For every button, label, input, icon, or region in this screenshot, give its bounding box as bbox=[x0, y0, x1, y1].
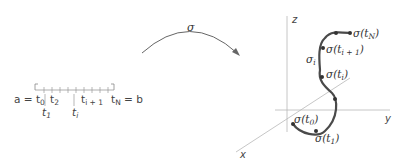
label-sigma-tN: σ(tN) bbox=[353, 27, 379, 41]
label-tN-eq-b: tN = b bbox=[111, 93, 143, 107]
point-ti1 bbox=[321, 46, 325, 50]
label-t1: t1 bbox=[42, 106, 51, 120]
label-sigma-ti: σ(ti) bbox=[326, 68, 348, 82]
x-axis-label: x bbox=[239, 149, 246, 160]
label-ti: ti bbox=[72, 106, 79, 120]
diagram-canvas: a = t0 t2 ti + 1 tN = b t1 ti σ z y x σ(… bbox=[0, 0, 401, 162]
point-upper bbox=[334, 31, 338, 35]
point-tN bbox=[348, 31, 352, 35]
label-sigma-ti-plus-1: σ(ti + 1) bbox=[326, 43, 364, 57]
label-sigma-t1: σ(t1) bbox=[315, 132, 339, 146]
mapping-arrow: σ bbox=[142, 21, 240, 56]
point-mid bbox=[333, 97, 337, 101]
label-t-i-plus-1: ti + 1 bbox=[81, 93, 103, 107]
y-axis-label: y bbox=[384, 113, 392, 124]
parameter-interval: a = t0 t2 ti + 1 tN = b t1 ti bbox=[14, 84, 143, 120]
map-sigma-label: σ bbox=[187, 21, 195, 34]
label-sigma-i: σi bbox=[306, 53, 316, 67]
label-a-eq-t0: a = t0 bbox=[14, 93, 45, 107]
label-sigma-t0: σ(t0) bbox=[294, 113, 318, 127]
label-t2: t2 bbox=[50, 93, 59, 107]
z-axis-label: z bbox=[291, 14, 298, 25]
point-ti bbox=[320, 75, 324, 79]
